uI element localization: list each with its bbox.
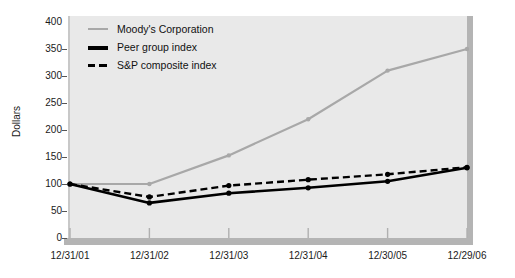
legend-item-moodys: Moody's Corporation [88,20,217,38]
data-point [385,68,389,72]
data-point [464,165,469,170]
data-point [147,182,151,186]
data-point [385,172,390,177]
data-point [67,181,72,186]
line-gray-icon [88,23,108,35]
series-line [70,167,467,197]
data-point [306,177,311,182]
stock-performance-chart: Dollars 400350300250200150100500 12/31/0… [0,0,515,278]
line-black-icon [88,41,108,53]
data-point [147,200,152,205]
legend-label-sp-composite: S&P composite index [117,59,217,71]
legend-item-peer-group: Peer group index [88,38,217,56]
legend-label-peer-group: Peer group index [117,41,197,53]
line-dashed-icon [88,59,108,71]
legend-label-moodys: Moody's Corporation [117,23,214,35]
data-point [306,185,311,190]
data-point [306,117,310,121]
data-point [385,179,390,184]
chart-legend: Moody's Corporation Peer group index S&P… [88,20,217,74]
data-point [226,183,231,188]
data-point [147,194,152,199]
data-point [465,47,469,51]
legend-item-sp-composite: S&P composite index [88,56,217,74]
data-point [226,191,231,196]
chart-plot-svg [0,0,515,278]
series-line [70,168,467,203]
data-point [227,153,231,157]
